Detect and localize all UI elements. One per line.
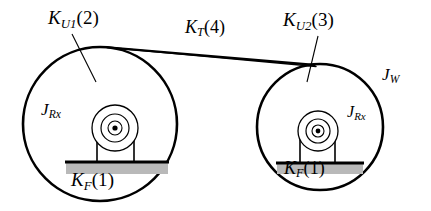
label-right-foundation-stiffness: KF(1): [284, 159, 325, 177]
label-ku2-index: (3): [312, 9, 334, 30]
label-ku1-subscript: U1: [61, 16, 77, 31]
label-kt-symbol: K: [185, 17, 197, 37]
label-jw-subscript: W: [390, 73, 400, 86]
label-left-rotor-inertia: JRx: [41, 101, 61, 118]
label-ku2-subscript: U2: [296, 18, 312, 33]
label-jrx-left-subscript: Rx: [49, 108, 61, 121]
label-kf-left-subscript: F: [84, 178, 92, 193]
label-kf-right-index: (1): [304, 158, 325, 178]
label-right-rotor-inertia: JRx: [347, 104, 366, 120]
label-jw-symbol: J: [382, 65, 390, 84]
label-jrx-right-subscript: Rx: [354, 110, 365, 122]
label-kt-index: (4): [204, 17, 225, 37]
label-kf-right-symbol: K: [284, 158, 296, 178]
label-ku1-symbol: K: [48, 7, 61, 28]
label-belt-stiffness: KT(4): [185, 18, 225, 36]
figure-canvas: KU1(2) KT(4) KU2(3) JW JRx JRx KF(1) KF(…: [0, 0, 431, 211]
label-kf-right-subscript: F: [296, 166, 303, 180]
label-left-foundation-stiffness: KF(1): [71, 170, 114, 189]
label-kt-subscript: T: [197, 25, 204, 39]
label-jrx-left-symbol: J: [41, 100, 49, 119]
left-shaft-center-dot: [112, 125, 117, 130]
label-ku1-index: (2): [77, 7, 99, 28]
label-left-wheel-stiffness: KU1(2): [48, 8, 99, 27]
label-wheel-inertia: JW: [382, 66, 399, 83]
label-kf-left-symbol: K: [71, 169, 84, 190]
right-shaft-center-dot: [316, 129, 321, 134]
label-ku2-symbol: K: [283, 9, 296, 30]
label-right-wheel-stiffness: KU2(3): [283, 10, 334, 29]
label-kf-left-index: (1): [92, 169, 114, 190]
